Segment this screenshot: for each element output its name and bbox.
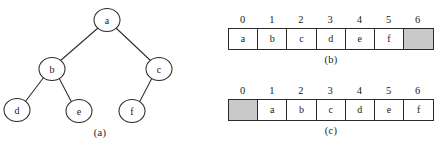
tree-node-label-a: a [105,15,110,26]
array-b-diagram: 0123456 abcdef (b) [228,12,434,65]
figure-caption-c: (c) [228,125,434,136]
array-b-cell-3: d [317,29,346,49]
array-b-index-3: 3 [316,12,345,28]
array-b-cell-4: e [346,29,375,49]
tree-edge-b-e [59,78,72,103]
array-c-cell-4: d [346,100,375,120]
array-b-index-4: 4 [345,12,374,28]
array-c-index-4: 4 [345,83,374,99]
array-c-cell-2: b [287,100,316,120]
array-b-cell-5: f [375,29,404,49]
array-b-index-0: 0 [228,12,257,28]
tree-edge-c-f [139,78,152,103]
array-c-cell-row: abcdef [228,99,434,121]
tree-node-a: a [94,9,120,32]
array-c-index-0: 0 [228,83,257,99]
array-b-cell-0: a [229,29,258,49]
array-c-cell-1: a [258,100,287,120]
array-c-index-6: 6 [403,83,432,99]
array-c-cell-5: e [375,100,404,120]
array-c-cell-3: c [317,100,346,120]
array-b-index-row: 0123456 [228,12,434,28]
tree-edge-a-c [116,28,151,61]
array-c-index-3: 3 [316,83,345,99]
tree-svg: abcdef [0,0,220,130]
tree-node-group: abcdef [4,9,172,123]
tree-node-e: e [66,100,92,123]
array-b-cell-6 [404,29,433,49]
array-c-index-5: 5 [374,83,403,99]
array-b-index-2: 2 [286,12,315,28]
array-c-index-2: 2 [286,83,315,99]
tree-diagram: abcdef (a) [0,0,220,151]
figure-caption-a: (a) [0,127,200,138]
figure-caption-b: (b) [228,54,434,65]
array-c-diagram: 0123456 abcdef (c) [228,83,434,136]
tree-node-label-b: b [50,64,55,75]
tree-edge-a-b [60,28,98,61]
array-b-cell-1: b [258,29,287,49]
tree-node-label-d: d [15,105,20,116]
array-c-cell-6: f [404,100,433,120]
array-c-cell-0 [229,100,258,120]
tree-node-label-e: e [77,106,82,117]
array-c-index-1: 1 [257,83,286,99]
array-b-cell-row: abcdef [228,28,434,50]
array-b-index-1: 1 [257,12,286,28]
tree-node-c: c [146,58,172,81]
tree-edge-b-d [25,77,44,102]
tree-node-f: f [119,100,145,123]
tree-node-d: d [4,99,30,122]
array-b-index-5: 5 [374,12,403,28]
tree-node-b: b [39,58,65,81]
array-b-cell-2: c [287,29,316,49]
array-b-index-6: 6 [403,12,432,28]
tree-node-label-c: c [157,64,162,75]
array-c-index-row: 0123456 [228,83,434,99]
